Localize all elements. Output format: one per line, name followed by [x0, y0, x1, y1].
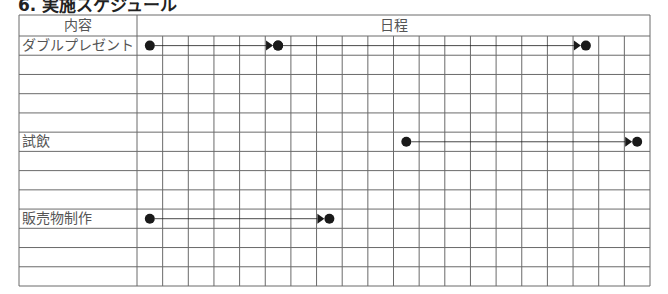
milestone-dot-icon [632, 137, 642, 147]
arrow-head-icon [625, 137, 632, 147]
arrow-head-icon [266, 41, 273, 51]
header-content: 内容 [19, 15, 137, 35]
arrow-head-icon [317, 214, 324, 224]
milestone-dot-icon [401, 137, 411, 147]
milestone-dot-icon [145, 214, 155, 224]
milestone-dot-icon [581, 41, 591, 51]
row-label: 試飲 [22, 132, 50, 151]
row-label: 販売物制作 [22, 209, 92, 228]
row-label: ダブルプレゼント [22, 36, 134, 55]
header-schedule: 日程 [137, 15, 650, 35]
arrow-head-icon [574, 41, 581, 51]
milestone-dot-icon [145, 41, 155, 51]
milestone-dot-icon [273, 41, 283, 51]
milestone-dot-icon [324, 214, 334, 224]
